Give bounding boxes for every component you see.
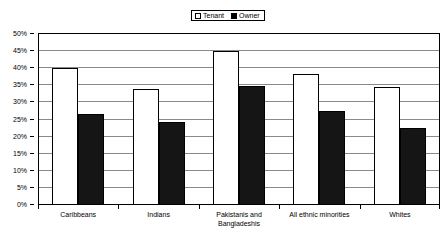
bar-group-all-ethnic-minorities xyxy=(279,33,359,205)
cat-tick-4 xyxy=(360,205,361,209)
x-axis-label-indians-line1: Indians xyxy=(120,210,196,219)
bar-owner-all-ethnic-minorities xyxy=(319,111,345,205)
y-tick-mark-40 xyxy=(30,67,34,68)
bar-group-pakistanis-and-bangladeshis xyxy=(199,33,279,205)
y-tick-label-25: 25% xyxy=(13,115,27,122)
x-axis-label-indians: Indians xyxy=(118,210,198,242)
bar-chart: Tenant Owner 50% 45% 40% 35% 30% 25% 20%… xyxy=(0,0,448,248)
filled-square-swatch-icon xyxy=(231,13,237,19)
y-tick-mark-25 xyxy=(30,119,34,120)
cat-tick-5 xyxy=(439,205,440,209)
bar-tenant-indians xyxy=(133,89,159,205)
y-tick-mark-10 xyxy=(30,170,34,171)
bar-owner-caribbeans xyxy=(78,114,104,205)
legend-entry-owner: Owner xyxy=(231,12,260,19)
bar-tenant-all-ethnic-minorities xyxy=(293,74,319,205)
x-axis-label-pakistanis-line2: Bangladeshis xyxy=(201,219,277,228)
y-tick-mark-50 xyxy=(30,33,34,34)
y-tick-label-15: 15% xyxy=(13,149,27,156)
chart-legend: Tenant Owner xyxy=(191,10,265,21)
bars-layer xyxy=(38,33,440,205)
bar-owner-pakistanis-and-bangladeshis xyxy=(239,86,265,205)
bar-group-caribbeans xyxy=(38,33,118,205)
y-tick-label-10: 10% xyxy=(13,166,27,173)
x-axis-label-pakistanis-line1: Pakistanis and xyxy=(201,210,277,219)
y-tick-mark-0 xyxy=(30,204,34,205)
bar-owner-whites xyxy=(400,128,426,205)
x-axis: Caribbeans Indians Pakistanis and Bangla… xyxy=(38,210,440,242)
bar-group-whites xyxy=(360,33,440,205)
x-axis-label-pakistanis-and-bangladeshis: Pakistanis and Bangladeshis xyxy=(199,210,279,242)
legend-label-owner: Owner xyxy=(239,12,260,19)
hollow-square-swatch-icon xyxy=(195,13,201,19)
y-axis: 50% 45% 40% 35% 30% 25% 20% 15% 10% 5% 0… xyxy=(0,33,34,205)
x-axis-label-all-ethnic-minorities: All ethnic minorities xyxy=(279,210,359,242)
bar-owner-indians xyxy=(159,122,185,205)
cat-tick-0 xyxy=(38,205,39,209)
y-tick-label-30: 30% xyxy=(13,98,27,105)
bar-tenant-pakistanis-and-bangladeshis xyxy=(213,51,239,205)
y-tick-mark-45 xyxy=(30,50,34,51)
y-tick-mark-30 xyxy=(30,101,34,102)
x-axis-label-whites: Whites xyxy=(360,210,440,242)
bar-group-indians xyxy=(118,33,198,205)
y-tick-label-50: 50% xyxy=(13,30,27,37)
cat-tick-1 xyxy=(118,205,119,209)
cat-tick-3 xyxy=(279,205,280,209)
y-tick-label-45: 45% xyxy=(13,47,27,54)
cat-tick-2 xyxy=(199,205,200,209)
legend-entry-tenant: Tenant xyxy=(195,12,224,19)
y-tick-mark-5 xyxy=(30,187,34,188)
legend-label-tenant: Tenant xyxy=(203,12,224,19)
category-tick-marks xyxy=(38,205,440,209)
y-tick-label-0: 0% xyxy=(17,201,27,208)
bar-tenant-caribbeans xyxy=(52,68,78,205)
y-tick-label-35: 35% xyxy=(13,81,27,88)
y-tick-label-5: 5% xyxy=(17,183,27,190)
x-axis-label-caribbeans-line1: Caribbeans xyxy=(40,210,116,219)
y-tick-mark-35 xyxy=(30,84,34,85)
y-tick-mark-20 xyxy=(30,136,34,137)
y-tick-label-20: 20% xyxy=(13,132,27,139)
bar-tenant-whites xyxy=(374,87,400,205)
y-tick-label-40: 40% xyxy=(13,64,27,71)
x-axis-label-all-ethnic-minorities-line1: All ethnic minorities xyxy=(281,210,357,219)
x-axis-label-whites-line1: Whites xyxy=(362,210,438,219)
x-axis-label-caribbeans: Caribbeans xyxy=(38,210,118,242)
y-tick-mark-15 xyxy=(30,153,34,154)
